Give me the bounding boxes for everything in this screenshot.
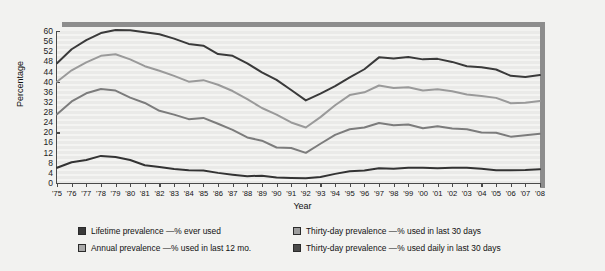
x-tick-mark (306, 183, 307, 187)
x-tick-mark (233, 183, 234, 187)
x-tick-mark (203, 183, 204, 187)
legend-item-2: Annual prevalence —% used in last 12 mo. (78, 239, 293, 256)
x-tick-label: '91 (286, 189, 296, 198)
y-tick-label: 24 (31, 118, 53, 126)
x-tick-label: '84 (184, 189, 194, 198)
x-tick-mark (438, 183, 439, 187)
x-tick-mark (335, 183, 336, 187)
x-tick-label: '88 (242, 189, 252, 198)
x-tick-label: '07 (520, 189, 530, 198)
y-tick-label: 0 (31, 179, 53, 187)
x-axis-line (56, 183, 541, 184)
y-tick-label: 20 (31, 128, 53, 136)
x-tick-label: '95 (345, 189, 355, 198)
x-tick-mark (525, 183, 526, 187)
y-tick-label: 4 (31, 169, 53, 177)
x-tick-mark (145, 183, 146, 187)
x-tick-mark (86, 183, 87, 187)
x-tick-mark (277, 183, 278, 187)
x-tick-mark (189, 183, 190, 187)
legend-label: Annual prevalence —% used in last 12 mo. (91, 243, 251, 253)
y-tick-label: 28 (31, 108, 53, 116)
x-tick-label: '98 (389, 189, 399, 198)
x-tick-mark (57, 183, 58, 187)
x-tick-label: '86 (213, 189, 223, 198)
x-tick-mark (364, 183, 365, 187)
chart-legend: Lifetime prevalence —% ever usedThirty-d… (78, 222, 548, 256)
x-tick-mark (379, 183, 380, 187)
x-tick-mark (116, 183, 117, 187)
y-tick-label: 12 (31, 149, 53, 157)
y-axis-tick-labels: 04812162024283236404448525660 (27, 31, 53, 183)
y-axis-title: Percentage (15, 39, 25, 129)
x-tick-label: '93 (316, 189, 326, 198)
x-tick-mark (467, 183, 468, 187)
x-tick-mark (130, 183, 131, 187)
x-tick-label: '03 (462, 189, 472, 198)
x-tick-mark (350, 183, 351, 187)
x-tick-label: '01 (433, 189, 443, 198)
legend-swatch-icon (78, 227, 86, 235)
y-tick-mark (56, 31, 60, 32)
y-tick-mark (56, 132, 60, 133)
y-tick-label: 52 (31, 47, 53, 55)
x-tick-label: '87 (228, 189, 238, 198)
x-tick-label: '94 (330, 189, 340, 198)
x-tick-mark (72, 183, 73, 187)
y-tick-label: 32 (31, 98, 53, 106)
legend-swatch-icon (293, 227, 301, 235)
x-tick-label: '75 (52, 189, 62, 198)
x-tick-mark (218, 183, 219, 187)
x-tick-mark (159, 183, 160, 187)
x-tick-mark (408, 183, 409, 187)
x-tick-mark (394, 183, 395, 187)
x-tick-label: '85 (198, 189, 208, 198)
chart-figure: 04812162024283236404448525660 Percentage… (0, 0, 605, 271)
y-axis-line (56, 31, 57, 184)
legend-swatch-icon (78, 244, 86, 252)
y-tick-label: 44 (31, 68, 53, 76)
plot-right-rule (540, 22, 545, 188)
x-tick-label: '96 (359, 189, 369, 198)
x-tick-mark (262, 183, 263, 187)
x-tick-label: '83 (169, 189, 179, 198)
x-tick-mark (496, 183, 497, 187)
x-tick-label: '99 (403, 189, 413, 198)
x-tick-label: '97 (374, 189, 384, 198)
y-tick-label: 60 (31, 27, 53, 35)
x-tick-label: '05 (491, 189, 501, 198)
x-tick-mark (101, 183, 102, 187)
legend-label: Lifetime prevalence —% ever used (91, 226, 221, 236)
plot-top-rule (62, 22, 545, 27)
x-tick-label: '92 (301, 189, 311, 198)
plot-area (57, 31, 540, 183)
x-tick-label: '80 (125, 189, 135, 198)
x-tick-mark (247, 183, 248, 187)
plot-gridline-stripes (57, 31, 540, 183)
x-tick-mark (481, 183, 482, 187)
x-tick-mark (291, 183, 292, 187)
legend-item-3: Thirty-day prevalence —% used daily in l… (293, 239, 548, 256)
x-axis-title: Year (0, 201, 605, 211)
x-tick-mark (423, 183, 424, 187)
x-tick-label: '90 (272, 189, 282, 198)
x-tick-mark (320, 183, 321, 187)
x-tick-label: '00 (418, 189, 428, 198)
y-tick-label: 40 (31, 78, 53, 86)
x-tick-label: '82 (155, 189, 165, 198)
x-tick-label: '81 (140, 189, 150, 198)
y-tick-label: 56 (31, 37, 53, 45)
x-tick-label: '06 (506, 189, 516, 198)
x-tick-label: '79 (111, 189, 121, 198)
legend-swatch-icon (293, 244, 301, 252)
y-tick-label: 48 (31, 57, 53, 65)
x-tick-label: '77 (81, 189, 91, 198)
x-tick-label: '04 (477, 189, 487, 198)
y-tick-mark (56, 82, 60, 83)
x-tick-label: '76 (67, 189, 77, 198)
legend-label: Thirty-day prevalence —% used daily in l… (306, 243, 501, 253)
x-tick-label: '02 (447, 189, 457, 198)
x-tick-mark (174, 183, 175, 187)
x-tick-mark (511, 183, 512, 187)
x-tick-label: '78 (96, 189, 106, 198)
